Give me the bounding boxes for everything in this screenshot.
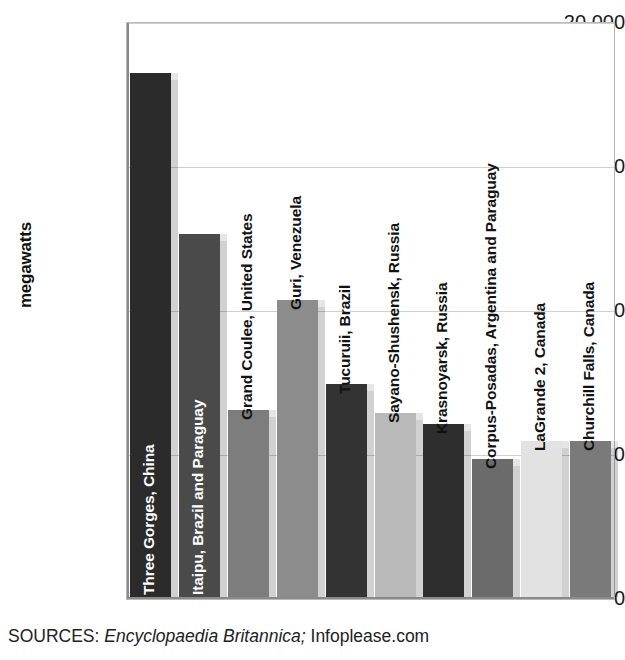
bar-chart: megawatts 05,00010,00015,00020,000 Three… xyxy=(0,0,625,660)
bar-label-0: Three Gorges, China xyxy=(140,444,158,595)
bar-shadow-side xyxy=(464,431,471,597)
bar-label-9: Churchill Falls, Canada xyxy=(580,282,598,451)
y-axis-title: megawatts xyxy=(16,205,36,325)
bar-label-2: Grand Coulee, United States xyxy=(238,213,256,420)
bar-label-5: Sayano-Shushensk, Russia xyxy=(385,223,403,423)
plot-area: Three Gorges, ChinaItaipu, Brazil and Pa… xyxy=(126,22,615,600)
bar-body xyxy=(521,441,562,597)
source-italic: Encyclopaedia Britannica; xyxy=(104,626,305,646)
bar-shadow-top xyxy=(562,441,569,448)
bar-body xyxy=(570,441,611,597)
bar-5[interactable] xyxy=(375,413,416,597)
bar-label-3: Guri, Venezuela xyxy=(287,196,305,310)
bar-8[interactable] xyxy=(521,441,562,597)
bar-4[interactable] xyxy=(326,384,367,597)
source-suffix: Infoplease.com xyxy=(306,626,430,646)
bar-body xyxy=(326,384,367,597)
bar-shadow-top xyxy=(513,459,520,466)
bar-shadow-side xyxy=(367,391,374,597)
bar-shadow-top xyxy=(611,441,618,448)
bar-6[interactable] xyxy=(423,424,464,597)
bar-body xyxy=(228,410,269,597)
bar-shadow-top xyxy=(367,384,374,391)
source-prefix: SOURCES: xyxy=(8,626,104,646)
bar-series: Three Gorges, ChinaItaipu, Brazil and Pa… xyxy=(127,23,614,599)
bar-shadow-side xyxy=(318,307,325,597)
bar-body xyxy=(423,424,464,597)
bar-shadow-side xyxy=(513,466,520,597)
bar-shadow-side xyxy=(416,420,423,597)
bar-shadow-top xyxy=(318,300,325,307)
bar-label-8: LaGrande 2, Canada xyxy=(531,303,549,451)
bar-shadow-top xyxy=(464,424,471,431)
bar-shadow-top xyxy=(171,73,178,80)
bar-3[interactable] xyxy=(277,300,318,597)
bar-2[interactable] xyxy=(228,410,269,597)
bar-shadow-side xyxy=(171,80,178,597)
source-note: SOURCES: Encyclopaedia Britannica; Infop… xyxy=(8,626,429,647)
bar-shadow-side xyxy=(269,417,276,597)
bar-label-7: Corpus-Posadas, Argentina and Paraguay xyxy=(482,163,500,469)
bar-9[interactable] xyxy=(570,441,611,597)
bar-label-6: Krasnoyarsk, Russia xyxy=(433,283,451,434)
bar-shadow-top xyxy=(416,413,423,420)
bar-7[interactable] xyxy=(472,459,513,597)
bar-shadow-side xyxy=(562,448,569,597)
bar-label-1: Itaipu, Brazil and Paraguay xyxy=(189,400,207,595)
bar-shadow-side xyxy=(611,448,618,597)
bar-body xyxy=(375,413,416,597)
bar-body xyxy=(277,300,318,597)
bar-shadow-top xyxy=(269,410,276,417)
bar-label-4: Tucuruii, Brazil xyxy=(336,285,354,394)
bar-shadow-top xyxy=(220,234,227,241)
bar-shadow-side xyxy=(220,241,227,597)
bar-body xyxy=(472,459,513,597)
